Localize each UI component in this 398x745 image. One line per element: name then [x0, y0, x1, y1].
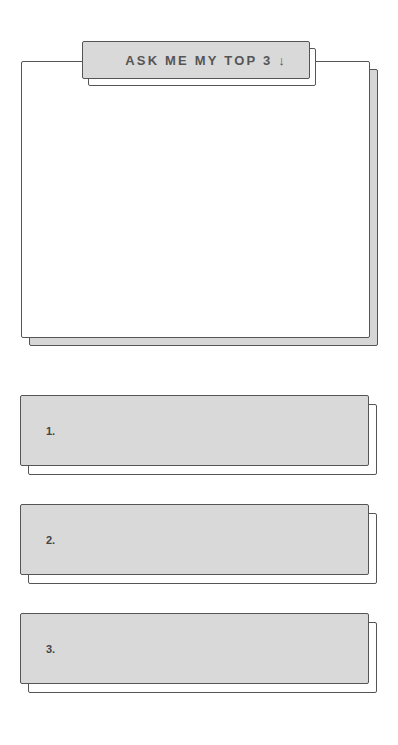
top-item-3[interactable]: 3. [20, 613, 369, 684]
top-item-1[interactable]: 1. [20, 395, 369, 466]
item-number: 2. [46, 534, 55, 546]
top-item-2[interactable]: 2. [20, 504, 369, 575]
answer-box [21, 61, 370, 338]
arrow-down-icon: ↓ [278, 53, 285, 68]
ask-top-3-button[interactable]: ASK ME MY TOP 3 ↓ [82, 41, 310, 79]
ask-button-label: ASK ME MY TOP 3 [125, 53, 272, 68]
item-number: 1. [46, 425, 55, 437]
item-number: 3. [46, 643, 55, 655]
